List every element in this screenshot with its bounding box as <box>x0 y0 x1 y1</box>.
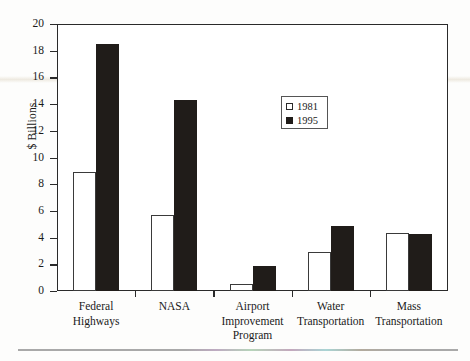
bar-1995-water-transportation <box>331 226 354 291</box>
y-axis-tick-14: 14 <box>0 104 57 105</box>
y-axis-tick-18: 18 <box>0 51 57 52</box>
bar-1995-nasa <box>174 100 197 291</box>
bar-1981-nasa <box>151 215 174 291</box>
y-axis-tick-label: 2 <box>38 256 44 270</box>
page-footer-rule <box>18 349 458 351</box>
x-axis-divider <box>135 291 136 297</box>
category-label-line: Highways <box>36 314 156 329</box>
y-axis-tick-12: 12 <box>0 131 57 132</box>
y-axis-tick-10: 10 <box>0 158 57 159</box>
y-axis-tick-label: 12 <box>33 123 45 137</box>
category-label-mass-transportation: MassTransportation <box>349 299 469 328</box>
y-axis-tick-20: 20 <box>0 24 57 25</box>
y-axis-tick-mark <box>50 104 57 105</box>
bar-1995-mass-transportation <box>409 234 432 291</box>
legend-swatch-filled-square-icon <box>286 117 293 124</box>
y-axis-tick-label: 6 <box>38 203 44 217</box>
y-axis-tick-mark <box>50 77 57 78</box>
y-axis-tick-mark <box>50 24 57 25</box>
bar-1995-airport-improvement-program <box>253 266 276 291</box>
y-axis-tick-4: 4 <box>0 238 57 239</box>
bar-1981-federal-highways <box>73 172 96 291</box>
category-label-line: Transportation <box>349 314 469 329</box>
y-axis-tick-8: 8 <box>0 184 57 185</box>
y-axis-tick-label: 8 <box>38 176 44 190</box>
bar-1981-airport-improvement-program <box>230 284 253 291</box>
bar-1995-federal-highways <box>96 44 119 291</box>
category-label-line: Program <box>193 328 313 343</box>
y-axis-tick-0: 0 <box>0 291 57 292</box>
y-axis-tick-mark <box>50 264 57 265</box>
x-axis-divider <box>213 291 214 297</box>
legend-entry-1981: 1981 <box>286 99 327 113</box>
x-axis-divider <box>292 291 293 297</box>
y-axis-tick-label: 16 <box>33 69 45 83</box>
legend-entry-1995: 1995 <box>286 113 327 127</box>
y-axis-tick-mark <box>50 184 57 185</box>
y-axis-tick-mark <box>50 238 57 239</box>
x-axis-divider <box>370 291 371 297</box>
y-axis-tick-6: 6 <box>0 211 57 212</box>
y-axis-tick-16: 16 <box>0 77 57 78</box>
bar-1981-mass-transportation <box>386 233 409 291</box>
y-axis-tick-mark <box>50 158 57 159</box>
y-axis-tick-mark <box>50 211 57 212</box>
legend-label-1981: 1981 <box>297 101 318 112</box>
bar-chart-figure: $ Billions 02468101214161820 FederalHigh… <box>0 0 470 361</box>
y-axis-tick-label: 0 <box>38 283 44 297</box>
y-axis-tick-mark <box>50 131 57 132</box>
y-axis-tick-label: 4 <box>38 230 44 244</box>
y-axis-tick-label: 18 <box>33 43 45 57</box>
bar-1981-water-transportation <box>308 252 331 291</box>
legend-label-1995: 1995 <box>297 115 318 126</box>
y-axis-tick-label: 20 <box>33 16 45 30</box>
y-axis-tick-label: 14 <box>33 96 45 110</box>
legend-swatch-open-square-icon <box>286 103 293 110</box>
chart-legend: 1981 1995 <box>281 96 328 129</box>
category-label-line: Mass <box>349 299 469 314</box>
y-axis-tick-2: 2 <box>0 264 57 265</box>
y-axis-tick-mark <box>50 291 57 292</box>
y-axis-tick-label: 10 <box>33 150 45 164</box>
y-axis-tick-mark <box>50 51 57 52</box>
